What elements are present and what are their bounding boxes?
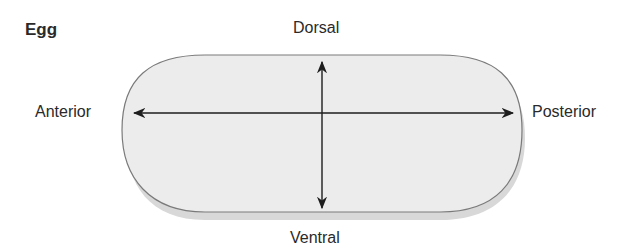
diagram-title: Egg bbox=[25, 20, 57, 40]
label-anterior: Anterior bbox=[35, 103, 91, 121]
label-dorsal: Dorsal bbox=[293, 19, 339, 37]
label-ventral: Ventral bbox=[290, 229, 340, 247]
egg-diagram bbox=[0, 0, 637, 252]
label-posterior: Posterior bbox=[532, 103, 596, 121]
